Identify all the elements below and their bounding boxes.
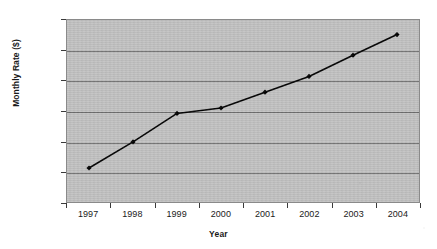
series-line-group bbox=[67, 20, 419, 202]
x-axis-tick-label: 2000 bbox=[199, 209, 243, 219]
x-axis-tick-label: 2003 bbox=[332, 209, 376, 219]
data-point-marker bbox=[350, 53, 355, 58]
x-axis-tick-mark bbox=[332, 203, 333, 208]
x-axis-tick-mark bbox=[376, 203, 377, 208]
x-axis-tick-label: 2004 bbox=[376, 209, 420, 219]
y-axis-title: Monthly Rate ($) bbox=[11, 13, 21, 133]
x-axis-tick-label: 1998 bbox=[110, 209, 154, 219]
x-axis-tick-label: 2002 bbox=[287, 209, 331, 219]
data-point-marker bbox=[306, 74, 311, 79]
data-point-marker bbox=[218, 105, 223, 110]
x-axis-tick-label: 1999 bbox=[155, 209, 199, 219]
x-axis-tick-mark bbox=[243, 203, 244, 208]
series-line bbox=[89, 35, 397, 168]
x-axis-tick-mark bbox=[66, 203, 67, 208]
x-axis-tick-label: 2001 bbox=[243, 209, 287, 219]
x-axis-tick-label: 1997 bbox=[66, 209, 110, 219]
line-chart-figure: Monthly Rate ($) 14.0013.5013.0012.5012.… bbox=[0, 0, 437, 249]
x-axis-tick-mark bbox=[199, 203, 200, 208]
x-axis-tick-mark bbox=[110, 203, 111, 208]
data-point-marker bbox=[262, 90, 267, 95]
x-axis-title: Year bbox=[0, 229, 437, 239]
plot-area bbox=[66, 19, 420, 203]
x-axis-tick-mark bbox=[287, 203, 288, 208]
x-axis-tick-mark bbox=[420, 203, 421, 208]
data-point-marker bbox=[394, 32, 399, 37]
x-axis-tick-mark bbox=[155, 203, 156, 208]
